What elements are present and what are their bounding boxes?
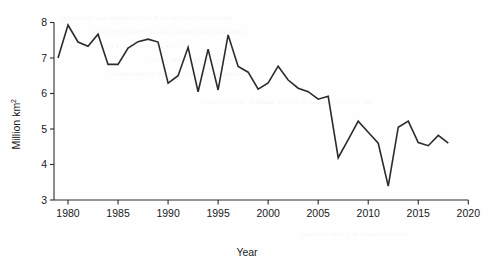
x-tick-label: 1980 <box>56 207 80 219</box>
x-axis-label: Year <box>0 246 494 258</box>
y-tick-label: 5 <box>41 123 47 135</box>
y-axis-ticks: 345678 <box>41 16 54 206</box>
x-tick-label: 1985 <box>106 207 130 219</box>
y-tick-label: 6 <box>41 87 47 99</box>
x-tick-label: 1990 <box>156 207 180 219</box>
y-tick-label: 8 <box>41 16 47 28</box>
chart-plot: 345678 198019851990199520002005201020152… <box>0 0 494 268</box>
y-tick-label: 3 <box>41 194 47 206</box>
y-tick-label: 7 <box>41 52 47 64</box>
y-tick-label: 4 <box>41 158 47 170</box>
y-axis-label: Million km2 <box>10 88 23 160</box>
data-series-line <box>58 25 448 186</box>
x-tick-label: 2020 <box>457 207 481 219</box>
x-tick-label: 2000 <box>256 207 280 219</box>
x-tick-label: 1995 <box>206 207 230 219</box>
x-tick-label: 2005 <box>307 207 331 219</box>
x-tick-label: 2010 <box>357 207 381 219</box>
chart-axes: 345678 198019851990199520002005201020152… <box>41 16 480 219</box>
chart-container: the overall decline in Arctic summer sea… <box>0 0 494 268</box>
x-tick-label: 2015 <box>407 207 431 219</box>
y-axis-label-text: Million km <box>10 103 22 150</box>
x-axis-ticks: 198019851990199520002005201020152020 <box>56 200 480 219</box>
y-axis-label-exponent: 2 <box>10 99 17 103</box>
